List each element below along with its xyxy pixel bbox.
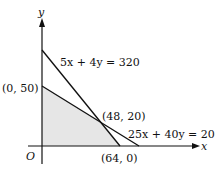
point-label-64-0: (64, 0) <box>101 152 138 165</box>
lp-diagram: y x O 5x + 4y = 320 25x + 40y = 2000 (0,… <box>0 0 215 182</box>
point-label-48-20: (48, 20) <box>102 110 146 123</box>
y-axis-arrow-icon <box>39 18 45 27</box>
y-axis-label: y <box>37 6 45 19</box>
line-2-equation: 25x + 40y = 2000 <box>128 128 215 141</box>
x-axis-label: x <box>201 140 208 153</box>
origin-label: O <box>26 150 35 163</box>
x-axis-arrow-icon <box>192 143 200 149</box>
point-label-0-50: (0, 50) <box>2 82 39 95</box>
line-1-equation: 5x + 4y = 320 <box>60 56 140 69</box>
